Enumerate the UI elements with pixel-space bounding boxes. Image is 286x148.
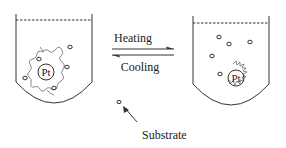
- substrate-icon: [210, 54, 214, 58]
- substrate-icon: [227, 42, 231, 46]
- substrate-icon: [37, 57, 41, 61]
- substrate-icon: [68, 45, 72, 49]
- substrate-label: Substrate: [142, 128, 187, 142]
- substrate-example-icon: [117, 100, 121, 103]
- left-beaker: Pt: [16, 14, 92, 103]
- diagram-canvas: Pt Heating Cooling Pt Substra: [0, 0, 286, 148]
- equilibrium-arrows: Heating Cooling: [112, 31, 174, 74]
- left-pt-label: Pt: [41, 66, 50, 78]
- substrate-icon: [248, 40, 252, 44]
- substrate-icon: [23, 76, 27, 80]
- heating-label: Heating: [114, 31, 152, 45]
- substrate-icon: [52, 86, 56, 90]
- substrate-icon: [65, 65, 69, 69]
- substrate-icon: [218, 72, 222, 76]
- right-pt-label: Pt: [231, 72, 240, 84]
- cooling-label: Cooling: [121, 60, 160, 74]
- substrate-icon: [217, 35, 221, 39]
- right-beaker-outline: [193, 16, 269, 105]
- right-beaker: Pt: [193, 16, 269, 105]
- substrate-callout: Substrate: [117, 100, 187, 142]
- left-polymer-tail-2: [47, 90, 54, 95]
